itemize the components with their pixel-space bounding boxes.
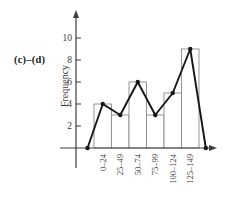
histogram-frequency-polygon-chart: 2468100–2425–4950–7475–99100–124125–149F… [0,0,231,199]
x-category-label: 25–49 [115,154,125,175]
frequency-polygon-point [188,47,192,51]
x-category-label: 50–74 [133,153,143,175]
y-axis-arrow-icon [73,10,79,18]
frequency-polygon-point [136,80,140,84]
y-axis-title: Frequency [59,65,70,107]
y-tick-label: 10 [63,33,73,43]
frequency-polygon-point [118,113,122,117]
frequency-polygon-point [153,113,157,117]
histogram-bar [94,104,112,148]
histogram-bar [147,115,165,148]
frequency-polygon-point [101,102,105,106]
frequency-polygon-point [204,146,208,150]
frequency-polygon-point [171,91,175,95]
y-tick-label: 2 [67,121,72,131]
x-category-label: 100–124 [168,153,178,184]
y-tick-label: 8 [67,55,72,65]
figure-panel: (c)–(d) 2468100–2425–4950–7475–99100–124… [0,0,231,199]
x-category-label: 0–24 [98,153,108,171]
x-axis-arrow-icon [209,145,217,151]
x-category-label: 125–149 [185,154,195,184]
histogram-bar [112,115,130,148]
x-category-label: 75–99 [150,154,160,175]
frequency-polygon-point [85,146,89,150]
